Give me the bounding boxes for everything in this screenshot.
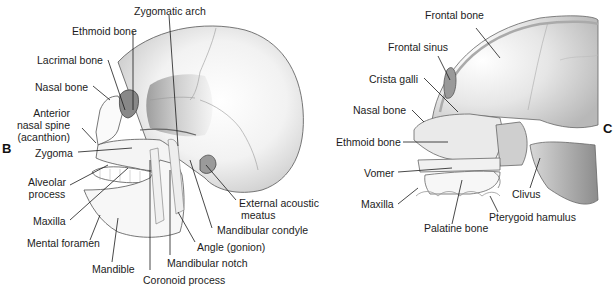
label-alveolar-process-line1: Alveolar [22, 176, 72, 188]
label-pterygoid-hamulus: Pterygoid hamulus [489, 211, 576, 223]
label-frontal-bone: Frontal bone [425, 9, 484, 21]
label-mandible: Mandible [92, 263, 135, 275]
label-crista-galli: Crista galli [369, 73, 418, 85]
label-maxilla-b: Maxilla [33, 215, 66, 227]
label-ethmoid-bone-c: Ethmoid bone [336, 136, 401, 148]
label-frontal-sinus: Frontal sinus [388, 41, 448, 53]
label-anterior-nasal-spine-line1: Anterior [10, 107, 70, 119]
label-mental-foramen: Mental foramen [27, 237, 100, 249]
label-angle-gonion: Angle (gonion) [197, 241, 265, 253]
label-ethmoid-bone-b: Ethmoid bone [72, 25, 137, 37]
label-alveolar-process-line2: process [22, 188, 72, 200]
label-vomer: Vomer [364, 167, 394, 179]
label-mandibular-notch: Mandibular notch [167, 257, 248, 269]
label-zygomatic-arch: Zygomatic arch [134, 5, 206, 17]
label-external-acoustic-meatus-line1: External acoustic [239, 197, 319, 209]
label-nasal-bone-c: Nasal bone [353, 104, 406, 116]
label-zygoma: Zygoma [35, 147, 73, 159]
label-mandibular-condyle: Mandibular condyle [217, 224, 308, 236]
label-external-acoustic-meatus-line2: meatus [241, 209, 275, 221]
label-maxilla-c: Maxilla [361, 198, 394, 210]
label-coronoid-process: Coronoid process [143, 274, 225, 286]
label-palatine-bone: Palatine bone [424, 222, 488, 234]
label-clivus: Clivus [512, 188, 541, 200]
panel-letter-b: B [2, 141, 11, 156]
label-anterior-nasal-spine-line2: nasal spine [10, 119, 70, 131]
panel-letter-c: C [603, 121, 612, 136]
label-anterior-nasal-spine-line3: (acanthion) [10, 131, 70, 143]
label-nasal-bone-b: Nasal bone [35, 81, 88, 93]
anatomy-figure: B Zygomatic arch Ethmoid bone Lacrimal b… [0, 0, 616, 287]
label-lacrimal-bone: Lacrimal bone [37, 54, 103, 66]
